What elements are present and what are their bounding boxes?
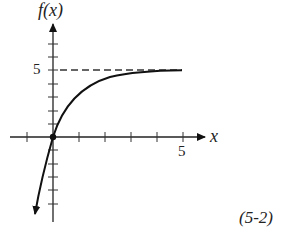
y-axis [48, 24, 58, 222]
x-axis [10, 132, 205, 142]
y-tick-label-5: 5 [33, 61, 41, 78]
y-axis-label: f(x) [38, 0, 63, 21]
function-curve [53, 70, 182, 137]
x-tick-label-5: 5 [178, 143, 186, 160]
figure-number: (5-2) [239, 208, 273, 228]
x-axis-label: x [210, 126, 218, 147]
origin-point [50, 134, 56, 140]
function-curve-left [35, 137, 53, 214]
